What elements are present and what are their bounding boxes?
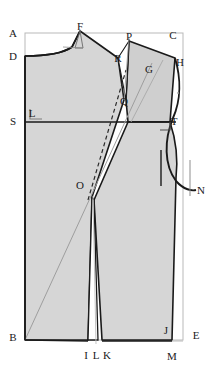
point-label-J: J [164,325,168,336]
dot-marker [177,92,179,94]
point-label-I: I [84,350,88,361]
point-label-T: T [171,116,178,127]
point-label-N: N [197,185,205,196]
point-label-Q: Q [120,96,128,107]
point-label-O: O [76,180,84,191]
point-label-C: C [169,30,176,41]
point-label-L-top: L [29,108,36,119]
point-label-S: S [10,116,16,127]
point-label-G: G [145,64,153,75]
point-label-E: E [193,330,200,341]
point-label-K: K [103,350,111,361]
shoulder-piece [126,41,175,122]
point-label-L-bottom: L [93,350,100,361]
point-label-D: D [9,51,17,62]
point-label-B: B [9,332,16,343]
point-label-H: H [176,57,184,68]
point-label-F: F [77,21,83,32]
pattern-diagram: A F P C D R G H Q L S T O N B I L K J M … [0,0,216,376]
point-label-P: P [126,31,132,42]
point-label-R: R [114,53,121,64]
hem-left [25,340,88,341]
point-label-A: A [9,28,17,39]
point-label-M: M [167,351,177,362]
